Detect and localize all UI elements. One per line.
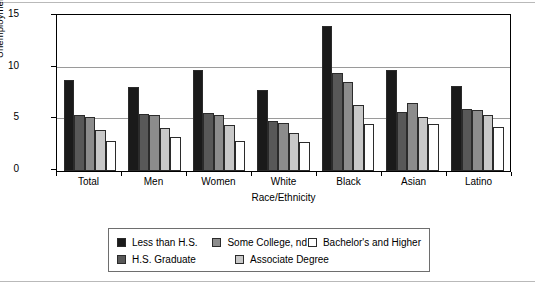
bar xyxy=(224,125,235,170)
bar-group xyxy=(122,16,187,171)
bar xyxy=(193,70,204,170)
bar xyxy=(160,128,171,170)
page-rule-bottom xyxy=(0,281,535,282)
x-axis-tick-label: White xyxy=(251,176,316,187)
y-axis-tick-label: 10 xyxy=(0,61,19,71)
legend-item-associate-degree: Associate Degree xyxy=(235,254,353,265)
bar xyxy=(203,113,214,171)
legend-label: H.S. Graduate xyxy=(132,254,196,265)
bar xyxy=(64,80,75,171)
x-axis-tick-label: Women xyxy=(186,176,251,187)
bar xyxy=(462,109,473,171)
legend-label: Bachelor's and Higher xyxy=(323,237,421,248)
bar xyxy=(386,70,397,170)
bar-group xyxy=(445,16,510,171)
bar xyxy=(289,133,300,170)
bar xyxy=(214,115,225,171)
bar xyxy=(364,124,375,171)
bar xyxy=(397,112,408,171)
page-rule-top xyxy=(0,2,535,3)
bar xyxy=(170,137,181,170)
legend-swatch-icon xyxy=(212,238,221,247)
bar xyxy=(235,141,246,171)
legend-swatch-icon xyxy=(235,255,244,264)
legend-swatch-icon xyxy=(117,238,126,247)
bar xyxy=(74,115,85,171)
legend-item-hs-graduate: H.S. Graduate xyxy=(117,254,235,265)
bar xyxy=(95,130,106,170)
bar-group xyxy=(187,16,252,171)
legend-item-some-college: Some College, nd xyxy=(212,237,307,248)
bar xyxy=(407,103,418,170)
legend-swatch-icon xyxy=(117,255,126,264)
bar-group xyxy=(316,16,381,171)
x-axis-tick-label: Latino xyxy=(446,176,511,187)
x-axis-title: Race/Ethnicity xyxy=(56,192,511,203)
bar xyxy=(483,115,494,171)
bar xyxy=(451,86,462,171)
legend-label: Less than H.S. xyxy=(132,237,198,248)
bar-group xyxy=(380,16,445,171)
bar xyxy=(278,123,289,171)
legend-item-bachelors-and-higher: Bachelor's and Higher xyxy=(308,237,421,248)
legend-label: Associate Degree xyxy=(250,254,329,265)
bar-groups xyxy=(58,16,510,171)
bar xyxy=(343,82,354,171)
x-axis-tick-label: Total xyxy=(56,176,121,187)
bar xyxy=(299,142,310,171)
x-axis-tick-labels: TotalMenWomenWhiteBlackAsianLatino xyxy=(56,176,511,187)
bar xyxy=(106,141,117,171)
legend-row: H.S. Graduate Associate Degree xyxy=(117,251,421,268)
bar xyxy=(257,90,268,171)
bar xyxy=(322,26,333,171)
bar xyxy=(353,105,364,170)
bar xyxy=(332,73,343,170)
bar xyxy=(418,117,429,171)
chart-legend: Less than H.S. Some College, nd Bachelor… xyxy=(108,228,430,272)
legend-row: Less than H.S. Some College, nd Bachelor… xyxy=(117,234,421,251)
bar xyxy=(139,114,150,171)
x-axis-tick-mark xyxy=(511,172,512,176)
legend-label: Some College, nd xyxy=(227,237,307,248)
bar xyxy=(472,110,483,171)
bar xyxy=(493,127,504,170)
bar xyxy=(128,87,139,171)
bar-group xyxy=(251,16,316,171)
bar xyxy=(85,117,96,171)
bar-group xyxy=(58,16,123,171)
y-axis-tick-label: 15 xyxy=(0,9,19,19)
y-axis-tick-label: 5 xyxy=(0,112,19,122)
chart-figure: Unemployment Rate 151050 TotalMenWomenWh… xyxy=(0,0,535,288)
legend-item-less-than-hs: Less than H.S. xyxy=(117,237,212,248)
legend-swatch-icon xyxy=(308,238,317,247)
bar xyxy=(428,124,439,171)
x-axis-tick-label: Asian xyxy=(381,176,446,187)
bar xyxy=(268,121,279,171)
x-axis-tick-label: Men xyxy=(121,176,186,187)
bar xyxy=(149,115,160,171)
y-axis-tick-label: 0 xyxy=(0,164,19,174)
x-axis-tick-label: Black xyxy=(316,176,381,187)
